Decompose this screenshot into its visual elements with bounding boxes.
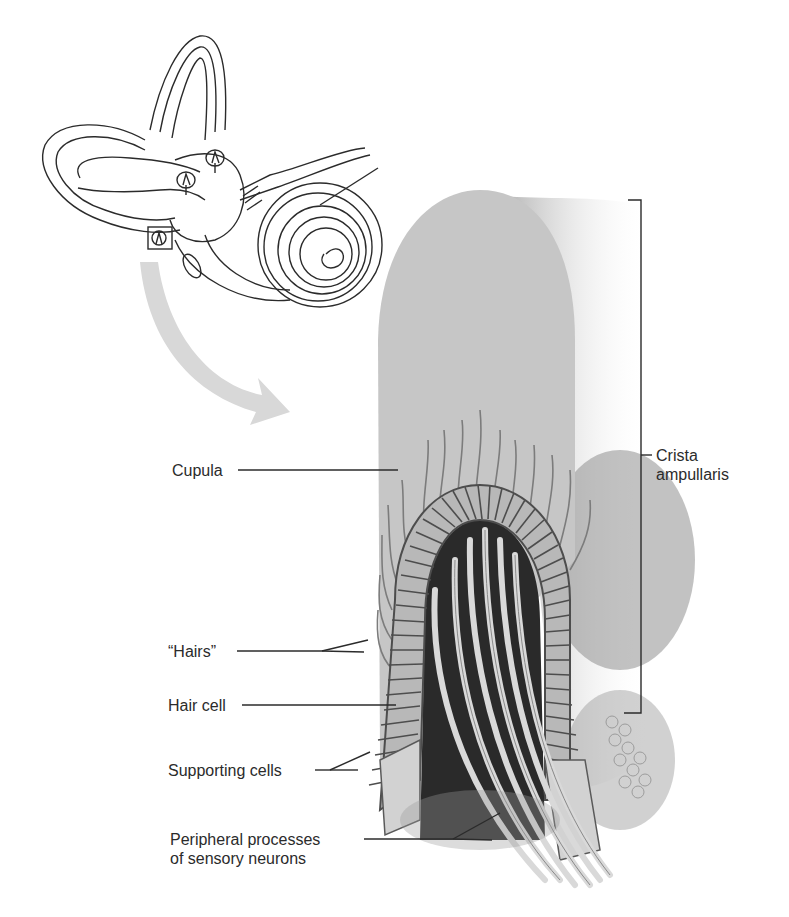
label-crista-line1: Crista: [656, 446, 729, 465]
label-supporting-cells: Supporting cells: [168, 761, 282, 780]
label-cupula: Cupula: [172, 461, 223, 480]
label-hair-cell: Hair cell: [168, 696, 226, 715]
label-peripheral-line2: of sensory neurons: [170, 849, 320, 868]
label-hairs: “Hairs”: [168, 642, 216, 661]
zoom-arrow: [140, 262, 290, 425]
label-peripheral-line1: Peripheral processes: [170, 830, 320, 849]
label-peripheral-processes: Peripheral processes of sensory neurons: [170, 830, 320, 868]
label-crista-line2: ampullaris: [656, 465, 729, 484]
inner-ear-inset: [43, 36, 382, 307]
label-crista-ampullaris: Crista ampullaris: [656, 446, 729, 484]
